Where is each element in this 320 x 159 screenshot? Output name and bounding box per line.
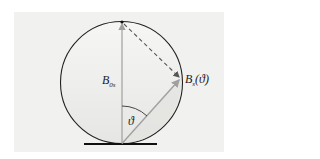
- label-bs-theta: Bs(ϑ): [185, 72, 209, 88]
- top-point: [120, 20, 123, 23]
- label-angle-theta: ϑ: [128, 114, 134, 129]
- label-b0s: B0s: [102, 73, 116, 89]
